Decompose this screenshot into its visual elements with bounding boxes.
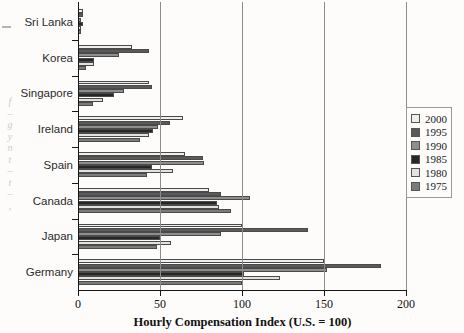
x-axis-title: Hourly Compensation Index (U.S. = 100) (78, 315, 407, 330)
y-axis-tick (72, 111, 78, 112)
legend-item: 1995 (411, 126, 447, 140)
legend-item: 1975 (411, 180, 447, 194)
legend-item: 2000 (411, 112, 447, 126)
legend-label: 1990 (425, 140, 447, 152)
x-axis-tick-label: 100 (233, 297, 251, 312)
legend-label: 1985 (425, 153, 447, 165)
legend-label: 2000 (425, 113, 447, 125)
category-label: Canada (6, 195, 78, 207)
category-label: Japan (6, 230, 78, 242)
y-axis-tick (72, 40, 78, 41)
legend-item: 1980 (411, 166, 447, 180)
chart-root: f–gynt–t–, Sri LankaKoreaSingaporeIrelan… (0, 0, 464, 333)
category-label: Singapore (6, 87, 78, 99)
bar (78, 209, 231, 213)
x-axis-tick (78, 291, 79, 296)
category-label: Ireland (6, 123, 78, 135)
legend-swatch-icon (411, 128, 420, 137)
x-axis-tick (242, 291, 243, 296)
gridline (242, 2, 243, 290)
x-axis-tick-label: 50 (154, 297, 166, 312)
x-axis-tick-label: 150 (315, 297, 333, 312)
legend-label: 1975 (425, 180, 447, 192)
legend-item: 1990 (411, 139, 447, 153)
legend-swatch-icon (411, 141, 420, 150)
legend-swatch-icon (411, 114, 420, 123)
bar (78, 245, 157, 249)
legend-swatch-icon (411, 155, 420, 164)
x-axis-tick (324, 291, 325, 296)
bar (78, 173, 147, 177)
x-axis-tick-label: 0 (75, 297, 81, 312)
bar (78, 102, 93, 106)
x-axis-tick (406, 291, 407, 296)
bar (78, 138, 140, 142)
y-axis-tick (72, 254, 78, 255)
x-axis-tick-label: 200 (397, 297, 415, 312)
y-axis-line (78, 2, 79, 292)
category-label: Germany (6, 266, 78, 278)
legend-item: 1985 (411, 153, 447, 167)
x-axis-tick (160, 291, 161, 296)
gridline (160, 2, 161, 290)
legend: 200019951990198519801975 (406, 107, 452, 198)
y-axis-tick (72, 183, 78, 184)
gridline (324, 2, 325, 290)
legend-label: 1995 (425, 126, 447, 138)
legend-swatch-icon (411, 182, 420, 191)
y-axis-tick (72, 76, 78, 77)
category-label: Spain (6, 159, 78, 171)
y-axis-tick (72, 147, 78, 148)
legend-label: 1980 (425, 167, 447, 179)
category-label: Korea (6, 52, 78, 64)
category-label: Sri Lanka (6, 16, 78, 28)
y-axis-tick (72, 219, 78, 220)
category-axis-labels: Sri LankaKoreaSingaporeIrelandSpainCanad… (0, 0, 78, 296)
legend-swatch-icon (411, 168, 420, 177)
